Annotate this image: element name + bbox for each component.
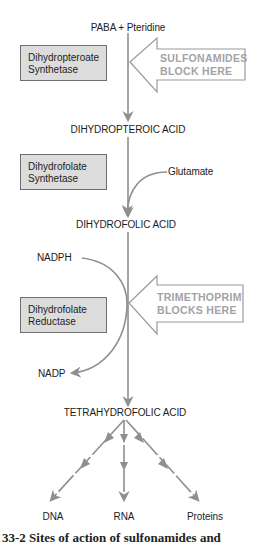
block-line1: SULFONAMIDES <box>160 52 248 65</box>
product-rna-label: RNA <box>114 511 135 522</box>
trimethoprim-block-label: TRIMETHOPRIM BLOCKS HERE <box>157 291 242 317</box>
enzyme-dihydropteroate-synthetase: Dihydropteroate Synthetase <box>20 45 107 81</box>
dihydrofolic-acid-label: DIHYDROFOLIC ACID <box>76 219 176 230</box>
nadp-label: NADP <box>38 368 65 379</box>
start-substrates-label: PABA + Pteridine <box>91 22 166 33</box>
figure-caption: 33-2 Sites of action of sulfonamides and <box>2 530 221 546</box>
dihydropteroic-acid-label: DIHYDROPTEROIC ACID <box>71 124 186 135</box>
enzyme-name-line2: Synthetase <box>28 173 106 185</box>
glutamate-label: Glutamate <box>168 166 213 177</box>
block-line1: TRIMETHOPRIM <box>157 291 242 304</box>
sulfonamides-block-label: SULFONAMIDES BLOCK HERE <box>160 52 248 78</box>
branch-to-dna <box>51 420 124 500</box>
block-line2: BLOCK HERE <box>160 65 248 78</box>
branch-arrows <box>51 420 198 500</box>
enzyme-name-line1: Dihydrofolate <box>28 304 106 316</box>
product-proteins-label: Proteins <box>187 511 223 522</box>
enzyme-name-line2: Reductase <box>28 316 106 328</box>
enzyme-dihydrofolate-reductase: Dihydrofolate Reductase <box>20 297 107 333</box>
enzyme-dihydrofolate-synthetase: Dihydrofolate Synthetase <box>20 154 107 190</box>
nadph-label: NADPH <box>37 252 72 263</box>
block-line2: BLOCKS HERE <box>157 304 242 317</box>
tetrahydrofolic-acid-label: TETRAHYDROFOLIC ACID <box>64 407 186 418</box>
enzyme-name-line1: Dihydropteroate <box>28 52 106 64</box>
enzyme-name-line1: Dihydrofolate <box>28 161 106 173</box>
product-dna-label: DNA <box>43 511 64 522</box>
enzyme-name-line2: Synthetase <box>28 64 106 76</box>
glutamate-arrow <box>127 172 167 214</box>
